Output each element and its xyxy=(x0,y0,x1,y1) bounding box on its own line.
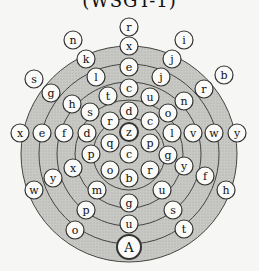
node-label: s xyxy=(87,106,93,119)
maze-node[interactable]: m xyxy=(88,181,106,199)
node-label: e xyxy=(126,61,133,74)
node-label: n xyxy=(69,34,76,47)
node-label: g xyxy=(125,197,132,210)
maze-node[interactable]: p xyxy=(82,145,100,163)
node-label: n xyxy=(180,95,187,108)
node-label: m xyxy=(92,184,103,197)
maze-node[interactable]: h xyxy=(63,95,81,113)
maze-node[interactable]: b xyxy=(215,66,233,84)
maze-node[interactable]: d xyxy=(78,124,96,142)
node-label: s xyxy=(31,73,37,86)
maze-node[interactable]: j xyxy=(152,68,170,86)
maze-node[interactable]: z xyxy=(120,123,138,141)
node-label: c xyxy=(147,115,153,128)
start-node[interactable]: A xyxy=(117,235,141,259)
maze-node[interactable]: p xyxy=(77,201,95,219)
maze-node[interactable]: x xyxy=(120,37,138,55)
maze-node[interactable]: w xyxy=(25,181,43,199)
maze-node[interactable]: r xyxy=(120,18,138,36)
maze-node[interactable]: s xyxy=(164,201,182,219)
maze-node[interactable]: s xyxy=(81,103,99,121)
node-label: r xyxy=(201,83,207,96)
node-label: y xyxy=(180,160,188,173)
maze-node[interactable]: r xyxy=(195,80,213,98)
node-label: c xyxy=(126,82,132,95)
maze-node[interactable]: f xyxy=(196,167,214,185)
maze-node[interactable]: g xyxy=(159,146,177,164)
maze-node[interactable]: p xyxy=(141,134,159,152)
node-label: x xyxy=(17,127,24,140)
maze-node[interactable]: u xyxy=(120,215,138,233)
maze-node[interactable]: o xyxy=(101,161,119,179)
maze-node[interactable]: t xyxy=(175,220,193,238)
maze-node[interactable]: s xyxy=(25,70,43,88)
node-label: c xyxy=(126,148,132,161)
maze-node[interactable]: c xyxy=(120,145,138,163)
node-label: t xyxy=(182,223,187,236)
node-label: t xyxy=(106,90,111,103)
maze-node[interactable]: g xyxy=(42,84,60,102)
maze-node[interactable]: q xyxy=(101,134,119,152)
maze-node[interactable]: k xyxy=(77,50,95,68)
maze-node[interactable]: u xyxy=(141,88,159,106)
node-label: w xyxy=(209,127,219,140)
node-label: l xyxy=(94,71,98,84)
maze-node[interactable]: e xyxy=(33,124,51,142)
maze-node[interactable]: f xyxy=(55,124,73,142)
node-label: A xyxy=(123,240,134,255)
maze-node[interactable]: d xyxy=(120,102,138,120)
maze-node[interactable]: r xyxy=(101,112,119,130)
node-label: u xyxy=(146,91,153,104)
node-label: e xyxy=(39,127,46,140)
maze-node[interactable]: l xyxy=(87,68,105,86)
node-label: u xyxy=(125,218,132,231)
node-label: y xyxy=(49,172,57,185)
node-label: o xyxy=(165,107,172,120)
node-label: z xyxy=(126,126,132,139)
maze-node[interactable]: n xyxy=(64,31,82,49)
maze-node[interactable]: o xyxy=(66,221,84,239)
node-label: d xyxy=(125,105,132,118)
node-label: d xyxy=(83,127,90,140)
node-label: r xyxy=(126,21,132,34)
maze-node[interactable]: t xyxy=(99,87,117,105)
node-label: x xyxy=(126,40,133,53)
node-label: o xyxy=(107,164,114,177)
maze-node[interactable]: x xyxy=(11,124,29,142)
node-label: p xyxy=(82,204,89,217)
maze-node[interactable]: b xyxy=(120,169,138,187)
maze-node[interactable]: h xyxy=(217,181,235,199)
node-label: g xyxy=(47,87,54,100)
maze-node[interactable]: c xyxy=(141,112,159,130)
maze-node[interactable]: g xyxy=(120,194,138,212)
maze-node[interactable]: u xyxy=(153,181,171,199)
node-label: q xyxy=(106,137,113,150)
node-label: b xyxy=(125,172,132,185)
maze-node[interactable]: l xyxy=(163,124,181,142)
node-label: p xyxy=(87,148,94,161)
maze-node[interactable]: n xyxy=(175,92,193,110)
maze-node[interactable]: v xyxy=(184,124,202,142)
node-label: x xyxy=(70,162,77,175)
node-label: r xyxy=(107,115,113,128)
node-label: u xyxy=(158,184,165,197)
node-label: i xyxy=(182,34,186,47)
maze-node[interactable]: e xyxy=(120,58,138,76)
maze-node[interactable]: y xyxy=(44,169,62,187)
circular-maze: rxecdzcbguAnkltsghsrxefdqpxywompoijjubrn… xyxy=(0,0,259,271)
maze-node[interactable]: i xyxy=(175,31,193,49)
node-label: v xyxy=(189,127,197,140)
maze-node[interactable]: o xyxy=(159,104,177,122)
maze-node[interactable]: w xyxy=(205,124,223,142)
node-label: p xyxy=(146,137,153,150)
node-label: s xyxy=(170,204,176,217)
maze-node[interactable]: c xyxy=(120,79,138,97)
node-label: r xyxy=(147,164,153,177)
maze-node[interactable]: y xyxy=(175,157,193,175)
maze-node[interactable]: y xyxy=(228,124,246,142)
maze-node[interactable]: x xyxy=(64,159,82,177)
node-label: y xyxy=(233,127,241,140)
maze-node[interactable]: r xyxy=(141,161,159,179)
node-label: o xyxy=(72,224,79,237)
maze-node[interactable]: j xyxy=(163,50,181,68)
